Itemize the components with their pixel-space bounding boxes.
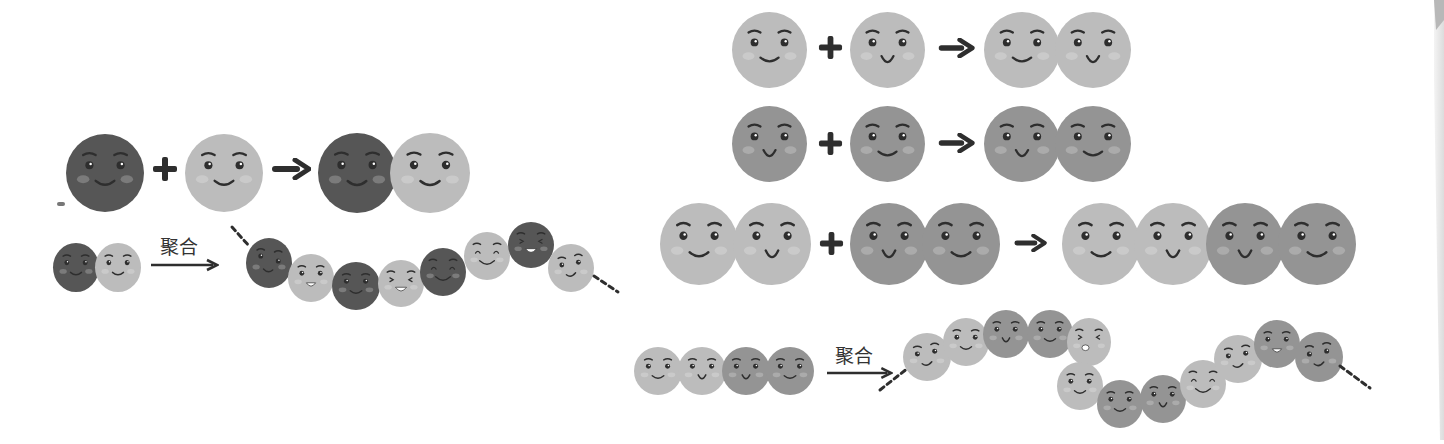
monomer-light-ball (95, 243, 141, 292)
smiley-face-icon (984, 106, 1060, 182)
dimer-light-ball (984, 12, 1060, 88)
plus-icon (818, 131, 843, 156)
smiley-face-icon (332, 262, 380, 310)
light-monomer-ball (185, 134, 263, 212)
chain-ball (1254, 320, 1300, 368)
dimer-light-ball (390, 133, 470, 213)
polymerize-arrow-icon (151, 257, 219, 271)
smiley-face-icon (1206, 203, 1284, 285)
chain-ball (1067, 318, 1111, 366)
smiley-face-icon (95, 243, 141, 292)
monomer-medium-ball (722, 347, 770, 395)
dark-monomer-ball (66, 134, 144, 212)
smiley-face-icon (678, 347, 726, 395)
smiley-face-icon (1097, 380, 1143, 428)
smiley-face-icon (850, 12, 925, 88)
smiley-face-icon (732, 106, 807, 182)
smiley-face-icon (733, 203, 811, 285)
medium-dimer-ball (850, 203, 928, 285)
smiley-face-icon (378, 260, 424, 307)
chain-ball (420, 248, 466, 296)
chain-ball (332, 262, 380, 310)
smiley-face-icon (1278, 203, 1356, 285)
smiley-face-icon (850, 203, 928, 285)
light-dimer-ball (660, 203, 738, 285)
smiley-face-icon (464, 232, 510, 280)
tetramer-medium-ball (1278, 203, 1356, 285)
chain-ball (548, 244, 594, 292)
smiley-face-icon (766, 347, 814, 395)
chain-end-dashes (1340, 366, 1370, 388)
dimer-dark-ball (318, 133, 396, 213)
smiley-face-icon (1067, 318, 1111, 366)
tetramer-light-ball (1134, 203, 1212, 285)
dimer-light-ball (1055, 12, 1131, 88)
polymerize-label: 聚合 (160, 232, 198, 259)
chain-ball (378, 260, 424, 307)
dimer-medium-ball (1055, 106, 1131, 182)
smiley-face-icon (1055, 12, 1131, 88)
medium-monomer-ball (732, 106, 807, 182)
smiley-face-icon (634, 347, 682, 395)
chain-ball (288, 254, 334, 302)
smiley-face-icon (732, 12, 807, 88)
smiley-face-icon (1055, 106, 1131, 182)
smiley-face-icon (922, 203, 1000, 285)
smiley-face-icon (390, 133, 470, 213)
smiley-face-icon (548, 244, 594, 292)
smiley-face-icon (288, 254, 334, 302)
tetramer-light-ball (1062, 203, 1140, 285)
smiley-face-icon (983, 310, 1029, 358)
plus-icon (152, 156, 178, 182)
smiley-face-icon (1134, 203, 1212, 285)
chain-ball (1097, 380, 1143, 428)
smiley-face-icon (318, 133, 396, 213)
light-dimer-ball (733, 203, 811, 285)
monomer-light-ball (634, 347, 682, 395)
smiley-face-icon (185, 134, 263, 212)
chain-ball (246, 238, 292, 288)
smiley-face-icon (246, 238, 292, 288)
polymerize-label: 聚合 (835, 341, 873, 368)
chain-ball (1295, 332, 1343, 382)
chain-end-dashes (594, 276, 618, 292)
small-dash-mark (57, 202, 65, 206)
smiley-face-icon (984, 12, 1060, 88)
smiley-face-icon (660, 203, 738, 285)
smiley-face-icon (66, 134, 144, 212)
light-monomer-ball (732, 12, 807, 88)
monomer-medium-ball (766, 347, 814, 395)
dimer-medium-ball (984, 106, 1060, 182)
smiley-face-icon (722, 347, 770, 395)
smiley-face-icon (1295, 332, 1343, 382)
light-monomer-ball (850, 12, 925, 88)
plus-icon (818, 35, 843, 60)
smiley-face-icon (420, 248, 466, 296)
smiley-face-icon (850, 106, 925, 182)
monomer-light-ball (678, 347, 726, 395)
medium-monomer-ball (850, 106, 925, 182)
smiley-face-icon (53, 243, 99, 292)
tetramer-medium-ball (1206, 203, 1284, 285)
smiley-face-icon (1254, 320, 1300, 368)
plus-icon (819, 231, 844, 256)
monomer-dark-ball (53, 243, 99, 292)
medium-dimer-ball (922, 203, 1000, 285)
arrow-icon (271, 158, 311, 180)
arrow-icon (937, 133, 975, 153)
chain-ball (983, 310, 1029, 358)
arrow-icon (1012, 234, 1048, 252)
smiley-face-icon (1062, 203, 1140, 285)
chain-ball (464, 232, 510, 280)
arrow-icon (937, 38, 975, 58)
page-edge (1422, 0, 1444, 444)
